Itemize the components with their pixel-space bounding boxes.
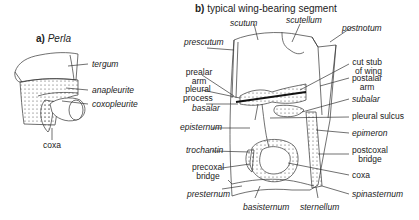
label-coxa-a: coxa — [43, 141, 61, 150]
panel-b-letter: b) — [195, 3, 204, 14]
label-tergum: tergum — [92, 60, 118, 69]
panel-a-name: Perla — [48, 33, 71, 44]
label-coxa-b: coxa — [352, 171, 370, 180]
label-postalar-arm: postalar arm — [350, 74, 384, 92]
label-epimeron: epimeron — [352, 129, 387, 138]
label-pleural-sulcus: pleural sulcus — [352, 112, 404, 121]
label-spinasternum: spinasternum — [352, 190, 403, 199]
label-postcoxal-bridge-line2: bridge — [350, 155, 390, 164]
label-postcoxal-bridge: postcoxal bridge — [350, 146, 390, 164]
label-precoxal-bridge-line2: bridge — [190, 172, 226, 181]
label-basisternum: basisternum — [243, 203, 289, 212]
label-subalar: subalar — [352, 95, 380, 104]
label-trochantin: trochantin — [186, 146, 223, 155]
label-pleural-process: pleural process — [182, 85, 214, 103]
label-anapleurite: anapleurite — [92, 86, 134, 95]
label-basalar: basalar — [192, 104, 220, 113]
label-scutellum: scutellum — [286, 16, 322, 25]
panel-b-name: typical wing-bearing segment — [207, 3, 337, 14]
label-postnotum: postnotum — [342, 24, 382, 33]
label-postalar-arm-line2: arm — [350, 83, 384, 92]
label-scutum: scutum — [230, 19, 257, 28]
perla-segment-drawing — [15, 53, 88, 140]
panel-b-title: b) typical wing-bearing segment — [195, 3, 337, 14]
panel-a-letter: a) — [36, 33, 45, 44]
label-presternum: presternum — [187, 190, 230, 199]
panel-a-title: a) Perla — [36, 33, 71, 44]
label-prescutum: prescutum — [184, 38, 224, 47]
label-sternellum: sternellum — [300, 203, 339, 212]
label-pleural-process-line2: process — [182, 94, 214, 103]
label-precoxal-bridge: precoxal bridge — [190, 163, 226, 181]
label-coxopleurite: coxopleurite — [92, 100, 138, 109]
label-episternum: episternum — [180, 123, 222, 132]
